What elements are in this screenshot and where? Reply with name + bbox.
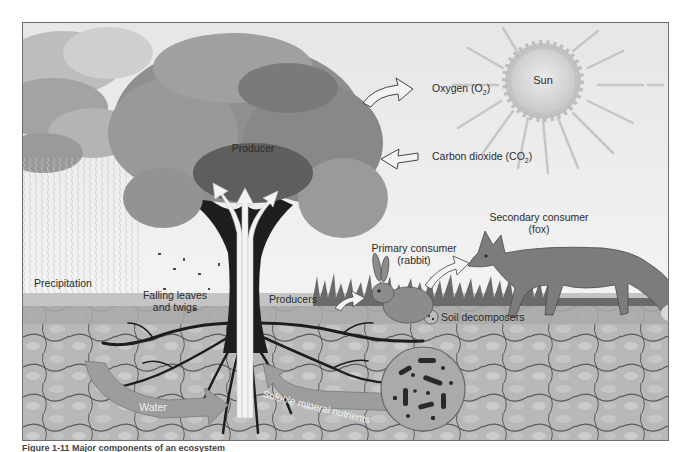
secondary-consumer-animal: (fox)	[479, 223, 599, 235]
falling-leaves-line1: Falling leaves	[135, 289, 215, 301]
primary-consumer-label: Primary consumer (rabbit)	[366, 242, 462, 266]
oxygen-label-text: Oxygen (O	[432, 82, 483, 94]
soil-decomposers-label: Soil decomposers	[441, 311, 524, 323]
sun-label: Sun	[507, 74, 579, 86]
falling-leaves-line2: and twigs	[135, 301, 215, 313]
producers-label: Producers	[266, 293, 320, 305]
primary-consumer-text: Primary consumer	[366, 242, 462, 254]
carbon-dioxide-label-close: )	[529, 150, 533, 162]
ecosystem-diagram: Sun Oxygen (O2) Carbon dioxide (CO2) Pro…	[22, 22, 669, 441]
carbon-dioxide-label-text: Carbon dioxide (CO	[432, 150, 525, 162]
precipitation-label: Precipitation	[23, 277, 103, 289]
carbon-dioxide-label: Carbon dioxide (CO2)	[432, 150, 532, 167]
water-label: Water	[123, 401, 183, 413]
secondary-consumer-label: Secondary consumer (fox)	[479, 211, 599, 235]
falling-leaves-label: Falling leaves and twigs	[135, 289, 215, 313]
secondary-consumer-text: Secondary consumer	[479, 211, 599, 223]
producer-label: Producer	[223, 142, 283, 154]
rain	[23, 158, 143, 293]
oxygen-label-close: )	[487, 82, 491, 94]
primary-consumer-animal: (rabbit)	[366, 254, 462, 266]
figure-caption: Figure 1-11 Major components of an ecosy…	[22, 443, 225, 452]
oxygen-label: Oxygen (O2)	[432, 82, 490, 99]
